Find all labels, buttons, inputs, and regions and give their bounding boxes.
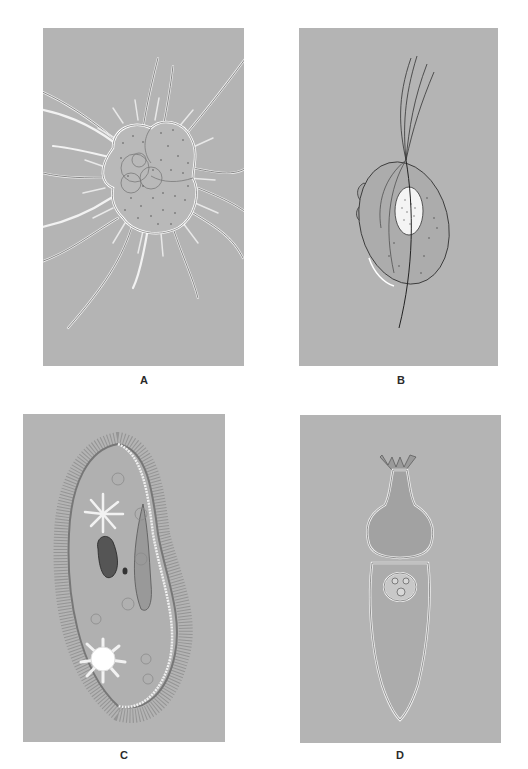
- panel-b-image: [299, 28, 498, 366]
- panel-a-label: A: [129, 374, 159, 386]
- panel-c-label: C: [109, 749, 139, 761]
- radiolarian-illustration: [43, 28, 244, 366]
- panel-d-image: [300, 415, 501, 743]
- paramecium-illustration: [23, 414, 225, 742]
- panel-c-image: [23, 414, 225, 742]
- panel-d-label: D: [385, 749, 415, 761]
- gregarine-illustration: [300, 415, 501, 743]
- panel-b-label: B: [386, 374, 416, 386]
- panel-a-image: [43, 28, 244, 366]
- flagellate-illustration: [299, 28, 498, 366]
